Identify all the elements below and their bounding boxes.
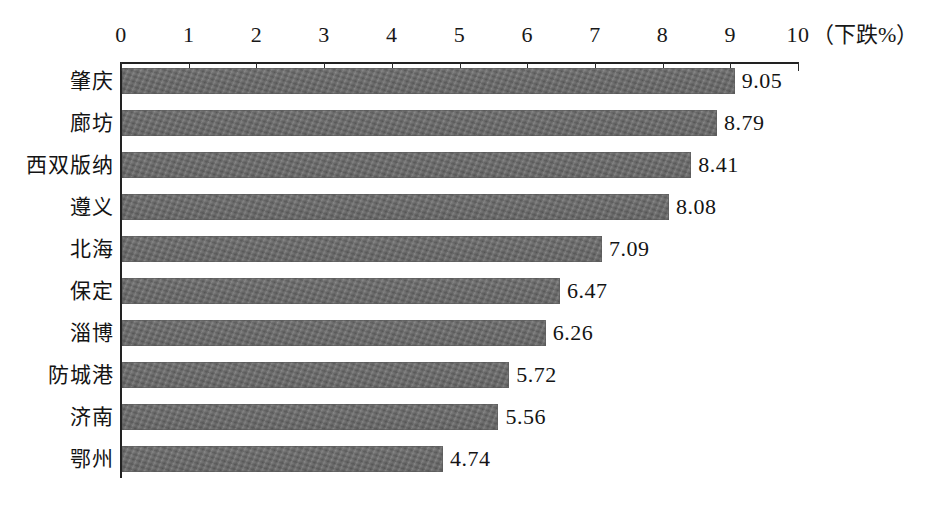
bar-value-label: 6.26	[553, 320, 594, 346]
x-axis-tick-label: 6	[507, 24, 547, 46]
bar	[122, 152, 691, 178]
x-axis-tick-label: 9	[710, 24, 750, 46]
bar	[122, 194, 669, 220]
category-label: 保定	[0, 278, 114, 304]
category-label: 廊坊	[0, 110, 114, 136]
bar	[122, 236, 602, 262]
category-label: 防城港	[0, 362, 114, 388]
bar	[122, 362, 509, 388]
category-label: 北海	[0, 236, 114, 262]
x-axis-tick-label: 0	[101, 24, 141, 46]
bar-value-label: 9.05	[742, 68, 783, 94]
category-label: 鄂州	[0, 446, 114, 472]
x-axis-unit-label: （下跌%）	[812, 24, 918, 46]
bar-value-label: 8.79	[724, 110, 765, 136]
x-axis-tick-label: 2	[236, 24, 276, 46]
bar	[122, 446, 443, 472]
bar-value-label: 4.74	[450, 446, 491, 472]
bar	[122, 278, 560, 304]
x-axis-tick-label: 3	[304, 24, 344, 46]
bar-value-label: 5.56	[505, 404, 546, 430]
bar-value-label: 5.72	[516, 362, 557, 388]
bar	[122, 320, 546, 346]
bar-value-label: 8.08	[676, 194, 717, 220]
category-label: 淄博	[0, 320, 114, 346]
x-axis-tick-label: 1	[169, 24, 209, 46]
bar	[122, 404, 498, 430]
x-axis-tick-label: 8	[643, 24, 683, 46]
x-axis-tick	[798, 62, 799, 71]
x-axis-tick-label: 5	[440, 24, 480, 46]
category-label: 西双版纳	[0, 152, 114, 178]
bar-value-label: 6.47	[567, 278, 608, 304]
x-axis-tick-label: 4	[372, 24, 412, 46]
bar-value-label: 8.41	[698, 152, 739, 178]
category-label: 肇庆	[0, 68, 114, 94]
category-label: 济南	[0, 404, 114, 430]
x-axis-tick-label: 7	[575, 24, 615, 46]
category-label: 遵义	[0, 194, 114, 220]
bar-value-label: 7.09	[609, 236, 650, 262]
bar	[122, 110, 717, 136]
bar	[122, 68, 735, 94]
bar-chart: 012345678910 （下跌%） 肇庆廊坊西双版纳遵义北海保定淄博防城港济南…	[0, 0, 928, 510]
